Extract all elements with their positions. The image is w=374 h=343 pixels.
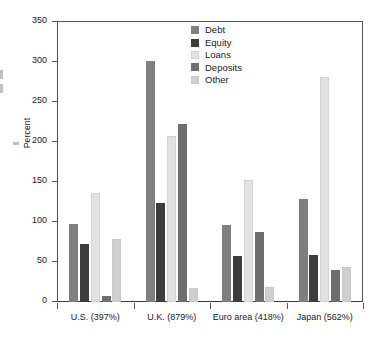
bar xyxy=(309,255,318,302)
y-axis-title: Percent xyxy=(22,103,32,163)
page-edge-artifact xyxy=(13,142,19,145)
bar xyxy=(167,136,176,302)
x-axis-tick-mark xyxy=(57,303,58,309)
legend-label: Equity xyxy=(205,38,231,48)
y-axis-tick-label: 150 xyxy=(32,175,47,185)
x-axis-tick-label: U.K. (879%) xyxy=(134,312,211,322)
bar-group xyxy=(299,22,351,302)
legend-label: Deposits xyxy=(205,63,242,73)
bar xyxy=(320,77,329,302)
grouped-bar-chart: Percent 050100150200250300350 U.S. (397%… xyxy=(0,0,374,343)
legend-label: Other xyxy=(205,75,229,85)
bar xyxy=(102,296,111,302)
bar xyxy=(233,256,242,302)
y-axis-tick-label: 300 xyxy=(32,55,47,65)
bar xyxy=(299,199,308,302)
legend-item: Deposits xyxy=(191,61,242,73)
legend-item: Equity xyxy=(191,36,242,48)
chart-legend: DebtEquityLoansDepositsOther xyxy=(191,24,242,86)
bar xyxy=(331,270,340,302)
legend-item: Other xyxy=(191,74,242,86)
bar-group xyxy=(69,22,121,302)
bar xyxy=(222,225,231,302)
legend-swatch xyxy=(191,76,199,84)
page-edge-artifact xyxy=(0,84,3,93)
x-axis-tick-label: U.S. (397%) xyxy=(57,312,134,322)
bar xyxy=(146,61,155,302)
legend-item: Debt xyxy=(191,24,242,36)
legend-swatch xyxy=(191,39,199,47)
bar xyxy=(189,288,198,302)
x-axis-tick-mark xyxy=(134,303,135,309)
bar xyxy=(112,239,121,302)
legend-swatch xyxy=(191,63,199,71)
y-axis-tick-label: 250 xyxy=(32,95,47,105)
x-axis-tick-mark xyxy=(287,303,288,309)
y-axis-tick-label: 350 xyxy=(32,15,47,25)
y-axis-tick-label: 100 xyxy=(32,215,47,225)
y-axis-tick-label: 200 xyxy=(32,135,47,145)
page-edge-artifact xyxy=(0,70,3,79)
bar xyxy=(265,287,274,302)
bar xyxy=(156,203,165,302)
x-axis-tick-label: Euro area (418%) xyxy=(210,312,287,322)
bar xyxy=(91,193,100,302)
y-axis-tick-label: 0 xyxy=(42,295,47,305)
bar-group xyxy=(146,22,198,302)
y-axis-tick-label: 50 xyxy=(37,255,47,265)
legend-swatch xyxy=(191,26,199,34)
bar xyxy=(255,232,264,302)
bar xyxy=(342,267,351,302)
legend-label: Debt xyxy=(205,25,225,35)
x-axis-tick-mark xyxy=(363,303,364,309)
x-axis-tick-label: Japan (562%) xyxy=(287,312,364,322)
x-axis-tick-mark xyxy=(210,303,211,309)
legend-swatch xyxy=(191,51,199,59)
bar xyxy=(69,224,78,302)
bar xyxy=(244,180,253,302)
legend-item: Loans xyxy=(191,49,242,61)
bar xyxy=(80,244,89,302)
bar xyxy=(178,124,187,302)
legend-label: Loans xyxy=(205,50,231,60)
